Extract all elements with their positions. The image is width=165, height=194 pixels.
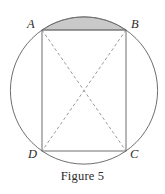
figure-caption: Figure 5: [0, 169, 165, 184]
figure-container: A B C D Figure 5: [0, 0, 165, 194]
vertex-label-b: B: [131, 18, 139, 31]
geometry-diagram: [0, 0, 165, 194]
vertex-label-a: A: [27, 18, 35, 31]
vertex-label-d: D: [28, 148, 37, 161]
vertex-label-c: C: [130, 148, 138, 161]
